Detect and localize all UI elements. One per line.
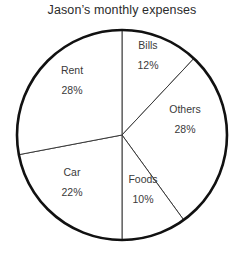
slice-label-name: Car [61, 167, 82, 178]
slice-label-name: Bills [137, 40, 158, 51]
pie-chart: Jason’s monthly expenses Bills12%Others2… [0, 0, 244, 259]
slice-label-foods: Foods10% [128, 174, 157, 205]
slice-label-value: 10% [128, 195, 157, 206]
slice-label-bills: Bills12% [137, 40, 158, 71]
slice-label-rent: Rent28% [61, 65, 83, 96]
pie-graphic [0, 0, 244, 259]
slice-label-others: Others28% [169, 104, 201, 135]
slice-label-name: Others [169, 104, 201, 115]
slice-label-value: 28% [169, 125, 201, 136]
slice-label-name: Rent [61, 65, 83, 76]
slice-label-value: 28% [61, 86, 83, 97]
slice-label-car: Car22% [61, 167, 82, 198]
slice-label-name: Foods [128, 174, 157, 185]
slice-label-value: 12% [137, 61, 158, 72]
slice-label-value: 22% [61, 188, 82, 199]
